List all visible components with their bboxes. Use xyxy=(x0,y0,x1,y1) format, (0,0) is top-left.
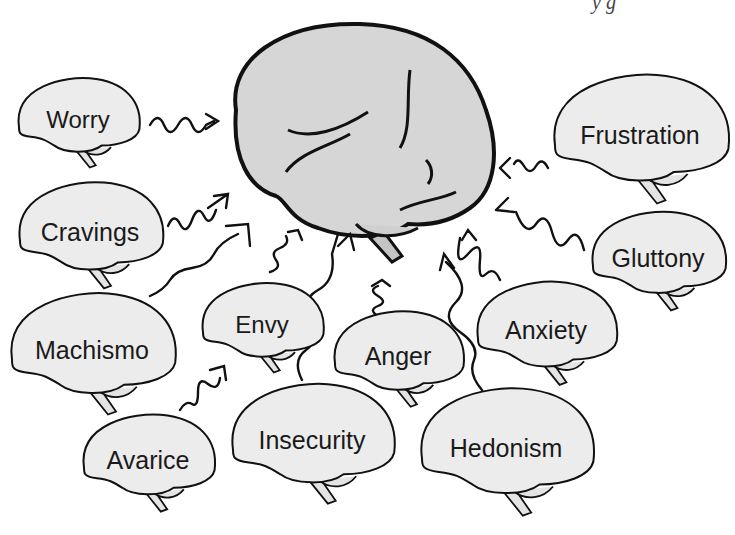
brain-label-cravings: Cravings xyxy=(41,220,140,245)
brain-label-machismo: Machismo xyxy=(35,338,149,363)
arrow-from-gluttony xyxy=(496,198,584,250)
brain-label-avarice: Avarice xyxy=(107,448,190,473)
arrow-from-avarice xyxy=(180,366,226,410)
arrow-from-frustration xyxy=(500,158,548,178)
brain-label-hedonism: Hedonism xyxy=(450,436,563,461)
arrow-from-anger xyxy=(372,280,390,316)
arrow-from-cravings xyxy=(168,194,228,229)
brain-diagram: y g WorryCravingsMachismoEnvyAvariceInse… xyxy=(0,0,735,535)
arrow-from-worry xyxy=(150,114,218,132)
central-brain-illustration xyxy=(235,24,494,262)
brain-label-frustration: Frustration xyxy=(580,123,699,148)
brain-label-anger: Anger xyxy=(365,344,432,369)
brain-label-anxiety: Anxiety xyxy=(505,318,587,343)
brain-label-gluttony: Gluttony xyxy=(611,246,704,271)
arrow-from-machismo xyxy=(150,224,250,296)
brain-label-worry: Worry xyxy=(46,108,110,132)
brain-label-insecurity: Insecurity xyxy=(259,428,366,453)
arrow-from-anxiety xyxy=(458,230,500,280)
arrow-from-envy xyxy=(270,230,302,272)
brain-label-envy: Envy xyxy=(235,313,288,337)
